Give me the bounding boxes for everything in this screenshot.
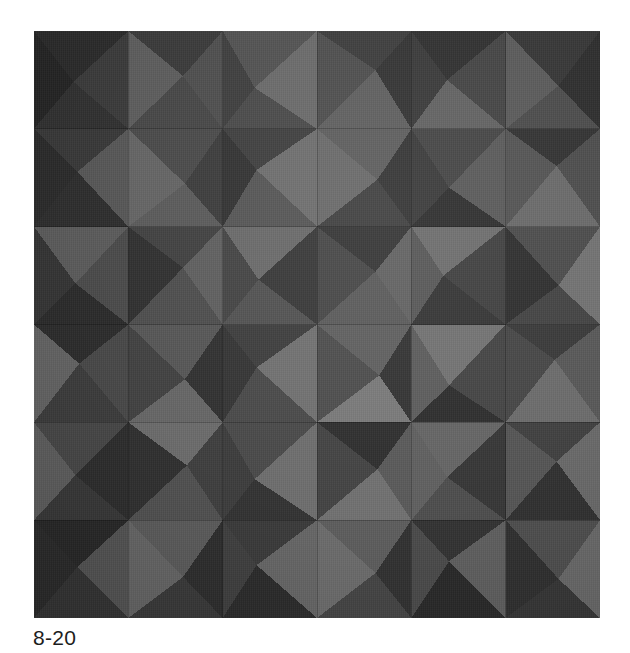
figure-caption: 8-20	[33, 626, 76, 650]
figure-root: 8-20	[0, 0, 630, 653]
panel-photograph	[34, 31, 600, 618]
faceted-tile-grid	[34, 31, 600, 618]
